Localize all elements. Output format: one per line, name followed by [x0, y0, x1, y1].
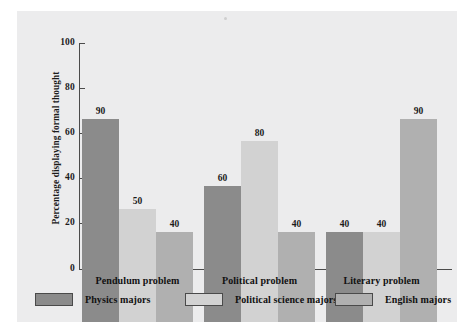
y-axis-title: Percentage displaying formal thought [51, 48, 61, 248]
y-tick-20: 20 [17, 217, 75, 229]
legend-item-political-science-majors[interactable]: Political science majors [185, 288, 337, 310]
bar-value-label: 40 [170, 219, 180, 229]
y-tick-mark-80 [79, 88, 85, 89]
bar-value-label: 80 [255, 128, 265, 138]
figure-container: 100 80 60 40 20 0 Percentage displaying … [0, 0, 474, 334]
x-axis-label-pendulum-problem: Pendulum problem [82, 275, 193, 286]
chart-panel: 100 80 60 40 20 0 Percentage displaying … [17, 11, 457, 322]
y-tick-label-0: 0 [35, 263, 75, 273]
y-tick-80: 80 [17, 82, 75, 94]
chart-legend: Physics majors Political science majors … [17, 288, 457, 314]
bar-value-label: 40 [340, 219, 350, 229]
bar-value-label: 40 [292, 219, 302, 229]
legend-item-physics-majors[interactable]: Physics majors [35, 288, 151, 310]
x-axis-label-literary-problem: Literary problem [326, 275, 437, 286]
legend-label-political-science-majors: Political science majors [235, 294, 337, 305]
legend-swatch-physics-majors [35, 293, 73, 306]
legend-label-english-majors: English majors [385, 294, 451, 305]
bar-value-label: 60 [218, 173, 228, 183]
y-tick-100: 100 [17, 37, 75, 49]
y-tick-mark-100 [79, 43, 85, 44]
y-tick-60: 60 [17, 127, 75, 139]
y-tick-label-100: 100 [35, 37, 75, 47]
y-tick-0: 0 [17, 263, 75, 275]
legend-item-english-majors[interactable]: English majors [335, 288, 451, 310]
y-axis-line [79, 43, 80, 270]
bar-value-label: 40 [377, 219, 387, 229]
bar-value-label: 50 [133, 196, 143, 206]
y-tick-40: 40 [17, 172, 75, 184]
legend-swatch-political-science-majors [185, 293, 223, 306]
legend-swatch-english-majors [335, 293, 373, 306]
legend-label-physics-majors: Physics majors [85, 294, 151, 305]
bar-value-label: 90 [96, 106, 106, 116]
scan-artifact-speck [224, 17, 227, 20]
bar-value-label: 90 [414, 106, 424, 116]
x-axis-label-political-problem: Political problem [204, 275, 315, 286]
